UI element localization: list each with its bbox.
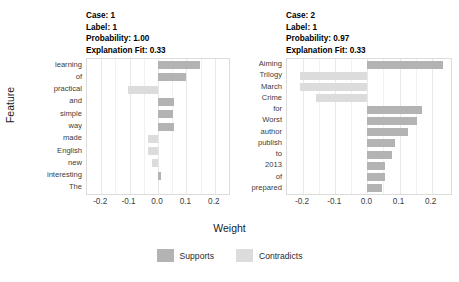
y-tick-label: March — [261, 82, 282, 91]
x-tick-labels: -0.2-0.10.00.10.2 — [86, 197, 230, 211]
x-tick-label: 0.1 — [393, 197, 404, 206]
y-tick-label: Aiming — [259, 59, 282, 68]
bar — [158, 172, 161, 180]
gridline — [215, 59, 216, 194]
y-tick-label: The — [69, 182, 82, 191]
panel-case-2: Case: 2 Label: 1 Probability: 0.97 Expla… — [240, 6, 452, 220]
gridline — [400, 59, 401, 194]
y-tick-label: of — [276, 172, 282, 181]
bar — [367, 162, 385, 170]
y-tick-label: practical — [54, 84, 82, 93]
x-axis-title-text: Weight — [213, 222, 246, 234]
y-tick-label: author — [260, 127, 282, 136]
bar — [300, 72, 368, 80]
x-tick-label: -0.1 — [122, 197, 136, 206]
panel-header: Case: 2 Label: 1 Probability: 0.97 Expla… — [286, 10, 366, 56]
bar — [128, 86, 158, 94]
y-tick-label: 2013 — [265, 160, 282, 169]
bar — [152, 159, 158, 167]
panel-label-text: Label: 1 — [86, 22, 166, 34]
bar — [367, 151, 391, 159]
bar — [158, 61, 200, 69]
gridline-minor — [416, 59, 417, 194]
y-tick-label: prepared — [252, 183, 282, 192]
bar — [367, 184, 381, 192]
bar — [367, 128, 407, 136]
y-tick-label: way — [68, 121, 82, 130]
y-tick-label: of — [76, 72, 82, 81]
gridline — [101, 59, 102, 194]
legend: SupportsContradicts — [0, 249, 459, 262]
x-tick-label: 0.0 — [151, 197, 162, 206]
y-tick-label: English — [57, 146, 82, 155]
legend-item: Supports — [157, 249, 214, 262]
panel-label-text: Label: 1 — [286, 22, 366, 34]
panel-case-text: Case: 2 — [286, 10, 366, 22]
bar — [367, 106, 422, 114]
panel-probability-text: Probability: 0.97 — [286, 33, 366, 45]
panel-fit-text: Explanation Fit: 0.33 — [286, 45, 366, 57]
y-tick-label: new — [68, 158, 82, 167]
y-axis-title: Feature — [2, 0, 18, 210]
y-tick-label: Trilogy — [259, 70, 282, 79]
y-tick-label: Worst — [262, 115, 282, 124]
bar — [367, 61, 443, 69]
y-tick-label: simple — [60, 109, 82, 118]
x-tick-label: -0.2 — [295, 197, 309, 206]
bar — [367, 139, 394, 147]
gridline-minor — [201, 59, 202, 194]
legend-item: Contradicts — [236, 249, 302, 262]
x-tick-label: 0.2 — [208, 197, 219, 206]
legend-swatch — [236, 249, 253, 262]
bar — [158, 98, 174, 106]
bar — [158, 123, 174, 131]
x-tick-label: 0.1 — [180, 197, 191, 206]
x-tick-label: 0.0 — [361, 197, 372, 206]
bar — [158, 110, 173, 118]
y-axis-title-text: Feature — [4, 87, 16, 123]
x-tick-label: -0.2 — [93, 197, 107, 206]
figure: Feature Case: 1 Label: 1 Probability: 1.… — [0, 0, 459, 282]
bar — [367, 173, 385, 181]
gridline-minor — [144, 59, 145, 194]
y-tick-label: interesting — [47, 170, 82, 179]
y-tick-label: made — [63, 133, 82, 142]
bar — [316, 94, 367, 102]
y-tick-label: publish — [258, 138, 282, 147]
x-tick-label: -0.1 — [327, 197, 341, 206]
y-tick-label: for — [273, 104, 282, 113]
y-tick-label: to — [276, 149, 282, 158]
gridline — [130, 59, 131, 194]
y-tick-labels: learningofpracticalandsimplewaymadeEngli… — [18, 58, 82, 195]
panel-fit-text: Explanation Fit: 0.33 — [86, 45, 166, 57]
bar — [148, 135, 158, 143]
gridline — [432, 59, 433, 194]
bar — [148, 147, 158, 155]
gridline-minor — [115, 59, 116, 194]
panel-case-text: Case: 1 — [86, 10, 166, 22]
x-tick-labels: -0.2-0.10.00.10.2 — [286, 197, 452, 211]
bar — [367, 117, 417, 125]
bar — [300, 83, 368, 91]
panel-probability-text: Probability: 1.00 — [86, 33, 166, 45]
panel-header: Case: 1 Label: 1 Probability: 1.00 Expla… — [86, 10, 166, 56]
legend-label: Supports — [180, 251, 214, 261]
y-tick-labels: AimingTrilogyMarchCrimeforWorstauthorpub… — [240, 58, 282, 195]
y-tick-label: learning — [55, 60, 82, 69]
plot-area — [286, 58, 452, 195]
legend-swatch — [157, 249, 174, 262]
legend-label: Contradicts — [259, 251, 302, 261]
panel-case-1: Case: 1 Label: 1 Probability: 1.00 Expla… — [18, 6, 230, 220]
x-axis-title: Weight — [0, 222, 459, 234]
bar — [158, 73, 186, 81]
plot-area — [86, 58, 230, 195]
y-tick-label: Crime — [262, 93, 282, 102]
y-tick-label: and — [69, 96, 82, 105]
x-tick-label: 0.2 — [425, 197, 436, 206]
gridline — [186, 59, 187, 194]
